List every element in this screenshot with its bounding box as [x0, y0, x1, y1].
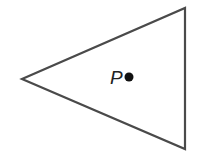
triangle-diagram: P — [0, 0, 201, 162]
triangle-shape — [22, 8, 185, 149]
diagram-canvas: P — [0, 0, 201, 162]
point-p-dot — [125, 73, 134, 82]
point-label: P — [110, 67, 123, 88]
